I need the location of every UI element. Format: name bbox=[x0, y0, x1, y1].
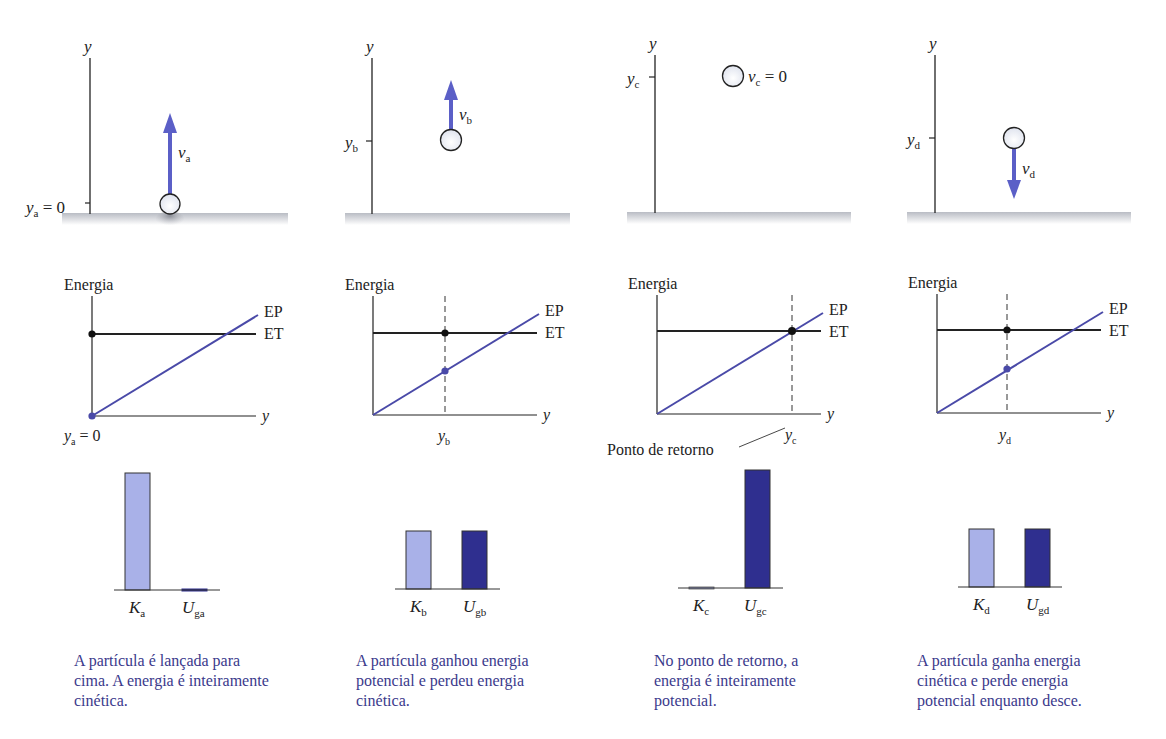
scene-a: y ya = 0 va bbox=[24, 37, 288, 227]
velocity-arrow-down-icon bbox=[1007, 180, 1021, 199]
velocity-label: vd bbox=[1022, 159, 1036, 180]
bar-chart-d: Kd Ugd bbox=[958, 529, 1062, 616]
kinetic-bar-label: Kd bbox=[972, 595, 990, 616]
turning-point-dot bbox=[788, 327, 796, 335]
caption-b: A partícula ganhou energia potencial e p… bbox=[356, 651, 596, 711]
potential-energy-line bbox=[937, 312, 1103, 413]
energy-graph-c: Energia y EP ET yc Ponto de retorno bbox=[607, 275, 849, 458]
energy-axis-title: Energia bbox=[908, 274, 957, 292]
velocity-label: va bbox=[178, 143, 191, 164]
potential-bar-label: Ugd bbox=[1026, 595, 1050, 616]
kinetic-bar bbox=[406, 531, 431, 589]
scene-d: y yd vd bbox=[905, 34, 1131, 224]
potential-bar bbox=[462, 531, 487, 589]
ep-label: EP bbox=[1109, 300, 1128, 317]
bar-chart-a: Ka Uga bbox=[114, 473, 220, 619]
ep-label: EP bbox=[545, 302, 564, 319]
caption-line: potencial enquanto desce. bbox=[917, 691, 1157, 711]
caption-line: energia é inteiramente bbox=[654, 671, 884, 691]
caption-line: potencial. bbox=[654, 691, 884, 711]
potential-energy-dot bbox=[88, 412, 95, 419]
total-energy-dot bbox=[441, 329, 448, 336]
graph-tick-label: yd bbox=[997, 426, 1011, 446]
kinetic-bar-label: Ka bbox=[128, 598, 145, 619]
y-axis-label: y bbox=[364, 37, 374, 56]
position-label: yc bbox=[625, 69, 640, 90]
ep-label: EP bbox=[264, 303, 283, 320]
caption-line: A partícula ganhou energia bbox=[356, 651, 596, 671]
diagram-canvas: y ya = 0 va y yb vb y yc vc = 0 y yd bbox=[0, 0, 1166, 739]
caption-line: A partícula é lançada para bbox=[74, 651, 314, 671]
caption-line: cinética. bbox=[356, 691, 596, 711]
caption-a: A partícula é lançada para cima. A energ… bbox=[74, 651, 314, 711]
ground bbox=[345, 213, 570, 225]
potential-bar-label: Ugb bbox=[463, 597, 487, 618]
caption-line: cima. A energia é inteiramente bbox=[74, 671, 314, 691]
graph-tick-label: yc bbox=[783, 426, 797, 446]
y-axis-label: y bbox=[647, 34, 657, 53]
potential-energy-line bbox=[657, 313, 823, 414]
velocity-arrow-up-icon bbox=[163, 113, 177, 133]
x-axis-label: y bbox=[825, 405, 835, 423]
position-label: ya = 0 bbox=[24, 198, 65, 219]
caption-line: cinética. bbox=[74, 691, 314, 711]
caption-line: No ponto de retorno, a bbox=[654, 651, 884, 671]
energy-axis-title: Energia bbox=[628, 275, 677, 293]
potential-energy-line bbox=[92, 315, 258, 416]
kinetic-bar-label: Kc bbox=[692, 596, 709, 617]
potential-bar-label: Ugc bbox=[744, 596, 767, 617]
position-label: yd bbox=[905, 130, 921, 151]
potential-energy-dot bbox=[441, 367, 448, 374]
bar-chart-c: Kc Ugc bbox=[678, 470, 783, 617]
ground bbox=[907, 212, 1131, 224]
ep-label: EP bbox=[829, 301, 848, 318]
particle-ball bbox=[723, 66, 744, 87]
energy-graph-b: Energia y EP ET yb bbox=[345, 276, 565, 447]
potential-bar bbox=[745, 470, 770, 588]
particle-ball bbox=[160, 194, 180, 214]
potential-bar bbox=[1025, 529, 1050, 587]
potential-bar-label: Uga bbox=[182, 598, 205, 619]
energy-graph-d: Energia y EP ET yd bbox=[908, 274, 1129, 446]
scene-b: y yb vb bbox=[343, 37, 570, 225]
energy-axis-title: Energia bbox=[345, 276, 394, 294]
scene-c: y yc vc = 0 bbox=[625, 34, 851, 224]
total-energy-dot bbox=[1003, 326, 1010, 333]
kinetic-bar bbox=[125, 473, 150, 590]
particle-ball bbox=[1004, 128, 1025, 149]
graph-tick-label: ya = 0 bbox=[62, 427, 101, 447]
turning-point-label: Ponto de retorno bbox=[607, 441, 714, 458]
potential-energy-line bbox=[373, 314, 539, 415]
energy-graph-a: Energia y EP ET ya = 0 bbox=[62, 276, 284, 447]
ground bbox=[627, 212, 851, 224]
caption-c: No ponto de retorno, a energia é inteira… bbox=[654, 651, 884, 711]
et-label: ET bbox=[264, 325, 284, 342]
et-label: ET bbox=[545, 324, 565, 341]
et-label: ET bbox=[1109, 322, 1129, 339]
y-axis-label: y bbox=[927, 34, 937, 53]
caption-line: potencial e perdeu energia bbox=[356, 671, 596, 691]
caption-line: A partícula ganha energia bbox=[917, 651, 1157, 671]
particle-ball bbox=[441, 130, 462, 151]
kinetic-bar bbox=[969, 529, 994, 587]
caption-line: cinética e perde energia bbox=[917, 671, 1157, 691]
position-label: yb bbox=[343, 133, 359, 154]
energy-axis-title: Energia bbox=[64, 276, 113, 294]
et-label: ET bbox=[829, 323, 849, 340]
caption-d: A partícula ganha energia cinética e per… bbox=[917, 651, 1157, 711]
bar-chart-b: Kb Ugb bbox=[395, 531, 500, 618]
total-energy-dot bbox=[88, 330, 95, 337]
graph-tick-label: yb bbox=[436, 427, 450, 447]
velocity-label: vc = 0 bbox=[748, 67, 787, 88]
turning-point-leader bbox=[739, 428, 785, 447]
velocity-label: vb bbox=[459, 105, 473, 126]
kinetic-bar-label: Kb bbox=[409, 597, 427, 618]
x-axis-label: y bbox=[541, 406, 551, 424]
y-axis-label: y bbox=[82, 37, 92, 56]
potential-energy-dot bbox=[1003, 365, 1010, 372]
velocity-arrow-up-icon bbox=[444, 80, 458, 100]
x-axis-label: y bbox=[260, 407, 270, 425]
x-axis-label: y bbox=[1105, 404, 1115, 422]
